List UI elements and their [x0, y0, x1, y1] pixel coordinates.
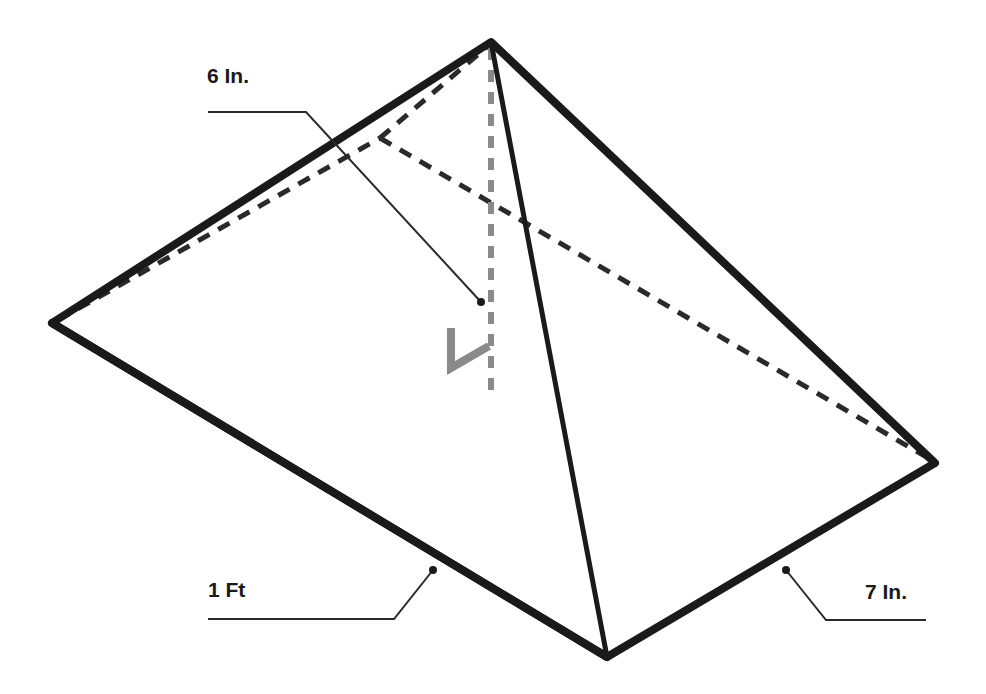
length-label: 1 Ft: [208, 578, 245, 602]
visible-edges: [52, 42, 935, 657]
right-angle-mark: [451, 328, 489, 368]
pyramid-diagram: [0, 0, 986, 694]
hidden-edge-back-right: [380, 138, 928, 458]
leader-dots: [429, 298, 790, 574]
height-label: 6 In.: [207, 64, 249, 88]
edge-left-bottom: [52, 323, 607, 657]
width-label: 7 In.: [865, 580, 907, 604]
dot-length: [429, 566, 437, 574]
base-outline: [52, 42, 935, 657]
dot-height: [477, 298, 485, 306]
dot-width: [782, 566, 790, 574]
hidden-edge-apex-back: [380, 46, 488, 138]
leader-lines: [208, 112, 926, 620]
